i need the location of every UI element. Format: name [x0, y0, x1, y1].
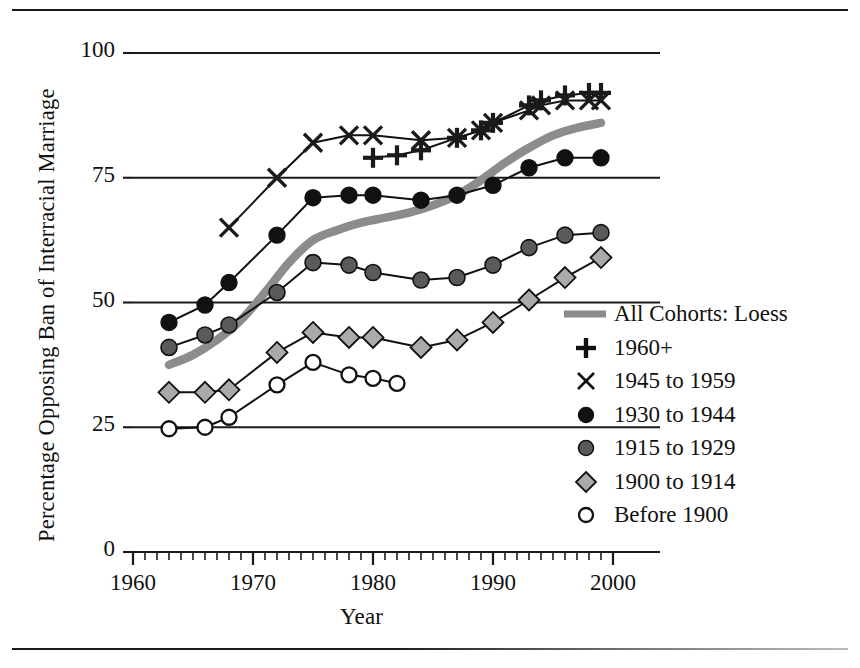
- legend-marker-gray-circle-icon: [556, 431, 608, 465]
- marker-1930-to-1944-1987: [449, 187, 465, 203]
- marker-1930-to-1944-1993: [521, 160, 537, 176]
- marker-before-1900-1978: [342, 367, 357, 382]
- marker-1930-to-1944-1984: [413, 192, 429, 208]
- y-tick-label-50: 50: [55, 287, 115, 313]
- marker-1900-to-1914-1987: [447, 329, 468, 350]
- legend-item: All Cohorts: Loess: [556, 297, 856, 331]
- y-tick-label-0: 0: [55, 536, 115, 562]
- legend-item-label: 1915 to 1929: [614, 431, 735, 465]
- marker-before-1900-1975: [306, 355, 321, 370]
- marker-1900-to-1914-1968: [219, 379, 240, 400]
- marker-1930-to-1944-1975: [305, 190, 321, 206]
- legend-item-label: 1930 to 1944: [614, 398, 735, 432]
- marker-1900-to-1914-1999: [591, 247, 612, 268]
- marker-1930-to-1944-1996: [557, 150, 573, 166]
- legend-marker-cross-icon: [556, 364, 608, 398]
- marker-1915-to-1929-1963: [161, 339, 177, 355]
- legend-item: 1900 to 1914: [556, 465, 856, 499]
- x-tick-label-2000: 2000: [573, 570, 653, 596]
- marker-1930-to-1944-1980: [365, 187, 381, 203]
- y-tick-label-75: 75: [55, 162, 115, 188]
- marker-1960-1980: [363, 148, 383, 168]
- marker-1945-to-1959-1968: [220, 219, 238, 237]
- legend-item-label: 1945 to 1959: [614, 364, 735, 398]
- marker-1900-to-1914-1978: [339, 327, 360, 348]
- marker-1915-to-1929-1999: [593, 225, 609, 241]
- marker-1915-to-1929-1978: [341, 257, 357, 273]
- marker-before-1900-1968: [222, 410, 237, 425]
- legend-item-label: 1960+: [614, 331, 673, 365]
- marker-1915-to-1929-1966: [197, 327, 213, 343]
- marker-1900-to-1914-1990: [483, 312, 504, 333]
- legend-item: 1915 to 1929: [556, 431, 856, 465]
- legend-marker-thick-gray-line-icon: [556, 297, 608, 331]
- marker-before-1900-1972: [270, 377, 285, 392]
- marker-1930-to-1944-1966: [197, 297, 213, 313]
- chart-legend: All Cohorts: Loess1960+1945 to 19591930 …: [556, 297, 856, 532]
- marker-before-1900-1982: [390, 376, 405, 391]
- marker-1900-to-1914-1980: [363, 327, 384, 348]
- marker-1900-to-1914-1972: [267, 342, 288, 363]
- legend-item-label: Before 1900: [614, 498, 728, 532]
- marker-1900-to-1914-1993: [519, 290, 540, 311]
- x-axis-title: Year: [340, 604, 383, 630]
- marker-1900-to-1914-1966: [195, 382, 216, 403]
- marker-1915-to-1929-1984: [413, 272, 429, 288]
- legend-marker-filled-circle-icon: [556, 398, 608, 432]
- legend-item: Before 1900: [556, 498, 856, 532]
- marker-1900-to-1914-1963: [159, 382, 180, 403]
- legend-item-label: All Cohorts: Loess: [614, 297, 788, 331]
- marker-before-1900-1980: [366, 371, 381, 386]
- marker-1915-to-1929-1987: [449, 270, 465, 286]
- figure-page: Percentage Opposing Ban of Interracial M…: [0, 0, 860, 668]
- marker-before-1900-1966: [198, 420, 213, 435]
- y-axis-title: Percentage Opposing Ban of Interracial M…: [34, 88, 60, 542]
- marker-1915-to-1929-1993: [521, 240, 537, 256]
- marker-1915-to-1929-1972: [269, 285, 285, 301]
- marker-1930-to-1944-1990: [485, 177, 501, 193]
- marker-1930-to-1944-1968: [221, 275, 237, 291]
- legend-marker-plus-icon: [556, 331, 608, 365]
- marker-1915-to-1929-1996: [557, 227, 573, 243]
- marker-1900-to-1914-1975: [303, 322, 324, 343]
- legend-item: 1930 to 1944: [556, 398, 856, 432]
- marker-1915-to-1929-1990: [485, 257, 501, 273]
- x-tick-label-1990: 1990: [453, 570, 533, 596]
- marker-1900-to-1914-1996: [555, 267, 576, 288]
- y-tick-label-100: 100: [55, 37, 115, 63]
- legend-item: 1960+: [556, 331, 856, 365]
- x-tick-label-1980: 1980: [333, 570, 413, 596]
- x-tick-label-1970: 1970: [213, 570, 293, 596]
- legend-marker-open-circle-icon: [556, 498, 608, 532]
- marker-1960-1984: [411, 140, 431, 160]
- marker-1930-to-1944-1999: [593, 150, 609, 166]
- marker-1915-to-1929-1968: [221, 317, 237, 333]
- marker-1930-to-1944-1978: [341, 187, 357, 203]
- marker-1930-to-1944-1963: [161, 314, 177, 330]
- marker-1945-to-1959-1975: [304, 134, 322, 152]
- marker-1915-to-1929-1980: [365, 265, 381, 281]
- legend-item-label: 1900 to 1914: [614, 465, 735, 499]
- legend-item: 1945 to 1959: [556, 364, 856, 398]
- marker-before-1900-1963: [162, 421, 177, 436]
- legend-marker-diamond-icon: [556, 465, 608, 499]
- marker-1960-1982: [387, 145, 407, 165]
- y-tick-label-25: 25: [55, 411, 115, 437]
- marker-1900-to-1914-1984: [411, 337, 432, 358]
- x-tick-label-1960: 1960: [93, 570, 173, 596]
- marker-1915-to-1929-1975: [305, 255, 321, 271]
- marker-1930-to-1944-1972: [269, 227, 285, 243]
